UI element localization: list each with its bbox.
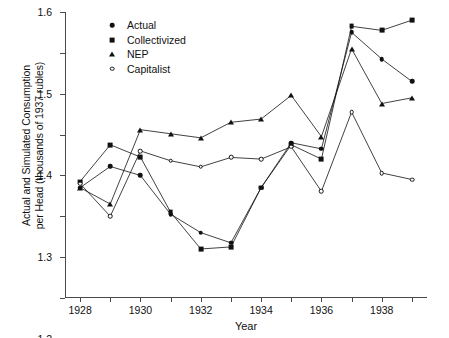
open-circle-marker-icon	[410, 177, 415, 182]
x-tick-label: 1930	[129, 304, 152, 316]
legend-item-capitalist: Capitalist	[104, 62, 186, 77]
chart-legend: ActualCollectivizedNEPCapitalist	[104, 18, 186, 76]
chart-figure: Actual and Simulated Consumption per Hea…	[0, 0, 449, 338]
filled-circle-marker-icon	[349, 30, 354, 35]
filled-circle-icon	[104, 18, 120, 33]
x-tick-label: 1934	[249, 304, 272, 316]
y-tick-label: 1.2	[37, 333, 52, 338]
open-circle-marker-icon	[138, 149, 143, 154]
filled-triangle-marker-icon	[409, 95, 415, 100]
open-circle-marker-icon	[78, 181, 83, 186]
series-line	[80, 112, 412, 216]
filled-circle-marker-icon	[410, 79, 415, 84]
legend-item-nep: NEP	[104, 47, 186, 62]
legend-item-label: Capitalist	[127, 63, 170, 75]
open-circle-marker-icon	[168, 158, 173, 163]
legend-item-label: Collectivized	[127, 34, 186, 46]
filled-square-marker-icon	[259, 185, 264, 190]
filled-triangle-glyph	[109, 52, 115, 57]
filled-square-marker-icon	[379, 28, 384, 33]
filled-triangle-marker-icon	[107, 202, 113, 207]
legend-item-collectivized: Collectivized	[104, 33, 186, 48]
x-axis-label: Year	[65, 320, 427, 332]
filled-square-marker-icon	[319, 157, 324, 162]
filled-square-marker-icon	[229, 245, 234, 250]
y-tick-label: 1.3	[37, 251, 52, 263]
filled-triangle-icon	[104, 47, 120, 62]
filled-triangle-marker-icon	[168, 131, 174, 136]
filled-triangle-marker-icon	[379, 101, 385, 106]
filled-square-marker-icon	[108, 142, 113, 147]
legend-item-actual: Actual	[104, 18, 186, 33]
x-tick-label: 1928	[68, 304, 91, 316]
y-axis-label: Actual and Simulated Consumption per Hea…	[20, 21, 45, 271]
open-circle-icon	[104, 62, 120, 77]
legend-item-label: NEP	[127, 48, 149, 60]
filled-triangle-marker-icon	[77, 185, 83, 190]
filled-circle-marker-icon	[319, 147, 324, 152]
x-tick-label: 1938	[370, 304, 393, 316]
legend-item-label: Actual	[127, 19, 156, 31]
filled-square-marker-icon	[138, 155, 143, 160]
y-tick: 0.8	[60, 298, 65, 299]
filled-triangle-marker-icon	[137, 127, 143, 132]
filled-square-marker-icon	[198, 247, 203, 252]
open-circle-marker-icon	[319, 189, 324, 194]
open-circle-marker-icon	[289, 145, 294, 150]
filled-triangle-marker-icon	[349, 46, 355, 51]
open-circle-marker-icon	[198, 165, 203, 170]
open-circle-marker-icon	[259, 157, 264, 162]
open-circle-marker-icon	[379, 171, 384, 176]
filled-square-marker-icon	[168, 210, 173, 215]
filled-circle-marker-icon	[198, 230, 203, 235]
x-tick-label: 1932	[189, 304, 212, 316]
filled-circle-glyph	[110, 23, 115, 28]
x-tick-label: 1936	[310, 304, 333, 316]
open-circle-marker-icon	[108, 214, 113, 219]
filled-triangle-marker-icon	[228, 120, 234, 125]
filled-triangle-marker-icon	[258, 117, 264, 122]
filled-triangle-marker-icon	[288, 93, 294, 98]
filled-square-icon	[104, 33, 120, 48]
filled-circle-marker-icon	[138, 173, 143, 178]
filled-triangle-marker-icon	[318, 134, 324, 139]
open-circle-glyph	[110, 66, 115, 71]
filled-circle-marker-icon	[379, 57, 384, 62]
filled-square-marker-icon	[349, 24, 354, 29]
filled-square-glyph	[110, 37, 115, 42]
open-circle-marker-icon	[229, 155, 234, 160]
open-circle-marker-icon	[349, 110, 354, 115]
y-tick-label: 1.4	[37, 169, 52, 181]
filled-triangle-marker-icon	[198, 135, 204, 140]
filled-square-marker-icon	[410, 18, 415, 23]
y-tick-label: 1.6	[37, 6, 52, 18]
y-tick-label: 1.5	[37, 88, 52, 100]
filled-circle-marker-icon	[108, 164, 113, 169]
